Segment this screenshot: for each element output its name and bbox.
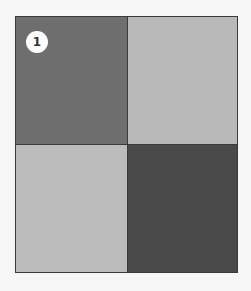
cell-bottom-right[interactable] <box>128 145 237 272</box>
cell-top-left[interactable]: 1 <box>16 17 127 144</box>
quadrant-grid: 1 <box>15 16 238 273</box>
cell-bottom-left[interactable] <box>16 145 127 272</box>
cell-top-right[interactable] <box>128 17 237 144</box>
number-badge: 1 <box>26 31 48 53</box>
